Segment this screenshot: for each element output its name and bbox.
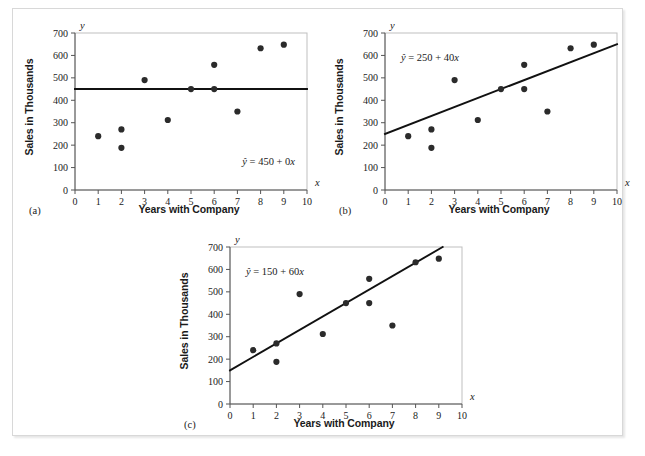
equation-annotation: ŷ = 150 + 60x: [245, 266, 304, 277]
data-point: [297, 291, 303, 297]
x-tick-label: 6: [522, 196, 527, 207]
data-point: [118, 126, 124, 132]
x-tick-label: 3: [297, 410, 302, 421]
data-point: [320, 331, 326, 337]
y-tick-label: 0: [218, 399, 223, 410]
chart-panel-a: Sales in Thousands Years with Company (a…: [29, 17, 329, 223]
scatter-plot-b: 0100200300400500600700012345678910yxŷ = …: [339, 17, 639, 217]
data-point: [366, 300, 372, 306]
data-point: [498, 86, 504, 92]
data-point: [95, 133, 101, 139]
y-tick-label: 600: [53, 50, 68, 61]
y-tick-label: 500: [53, 72, 68, 83]
data-point: [591, 42, 597, 48]
y-tick-label: 400: [363, 95, 378, 106]
x-tick-label: 4: [165, 196, 170, 207]
x-tick-label: 0: [228, 410, 233, 421]
data-point: [405, 133, 411, 139]
x-tick-label: 10: [457, 410, 467, 421]
x-axis-variable: x: [624, 177, 630, 188]
x-tick-label: 0: [73, 196, 78, 207]
x-tick-label: 2: [274, 410, 279, 421]
y-tick-label: 500: [363, 72, 378, 83]
y-tick-label: 500: [208, 286, 223, 297]
y-tick-label: 200: [363, 140, 378, 151]
data-point: [413, 259, 419, 265]
y-axis-variable: y: [79, 20, 85, 31]
y-tick-label: 200: [53, 140, 68, 151]
scatter-plot-a: 0100200300400500600700012345678910yxŷ = …: [29, 17, 329, 217]
data-point: [211, 62, 217, 68]
x-tick-label: 4: [320, 410, 325, 421]
x-tick-label: 3: [142, 196, 147, 207]
x-tick-label: 2: [119, 196, 124, 207]
y-tick-label: 700: [53, 28, 68, 39]
y-tick-label: 100: [363, 162, 378, 173]
data-point: [234, 108, 240, 114]
y-tick-label: 600: [363, 50, 378, 61]
x-tick-label: 5: [189, 196, 194, 207]
x-tick-label: 9: [281, 196, 286, 207]
x-tick-label: 8: [258, 196, 263, 207]
x-tick-label: 10: [302, 196, 312, 207]
x-tick-label: 1: [251, 410, 256, 421]
data-point: [258, 45, 264, 51]
data-point: [366, 276, 372, 282]
y-tick-label: 300: [208, 331, 223, 342]
x-tick-label: 5: [344, 410, 349, 421]
x-tick-label: 6: [367, 410, 372, 421]
data-point: [211, 86, 217, 92]
data-point: [544, 108, 550, 114]
x-tick-label: 9: [591, 196, 596, 207]
data-point: [521, 62, 527, 68]
x-tick-label: 1: [406, 196, 411, 207]
data-point: [521, 86, 527, 92]
y-axis-variable: y: [234, 234, 240, 245]
x-tick-label: 7: [235, 196, 240, 207]
data-point: [568, 45, 574, 51]
x-tick-label: 7: [390, 410, 395, 421]
x-tick-label: 1: [96, 196, 101, 207]
y-tick-label: 100: [208, 376, 223, 387]
x-tick-label: 5: [499, 196, 504, 207]
equation-annotation: ŷ = 450 + 0x: [241, 156, 295, 167]
data-point: [452, 77, 458, 83]
x-tick-label: 0: [383, 196, 388, 207]
data-point: [389, 322, 395, 328]
y-tick-label: 400: [53, 95, 68, 106]
data-point: [142, 77, 148, 83]
chart-panel-c: Sales in Thousands Years with Company (c…: [184, 231, 484, 437]
y-tick-label: 300: [53, 117, 68, 128]
y-tick-label: 0: [373, 185, 378, 196]
x-tick-label: 8: [568, 196, 573, 207]
y-tick-label: 200: [208, 354, 223, 365]
x-tick-label: 2: [429, 196, 434, 207]
y-tick-label: 700: [208, 242, 223, 253]
y-tick-label: 100: [53, 162, 68, 173]
data-point: [436, 256, 442, 262]
y-tick-label: 700: [363, 28, 378, 39]
data-point: [250, 347, 256, 353]
chart-panel-b: Sales in Thousands Years with Company (b…: [339, 17, 639, 223]
data-point: [165, 117, 171, 123]
y-axis-variable: y: [389, 20, 395, 31]
data-point: [273, 359, 279, 365]
data-point: [188, 86, 194, 92]
data-point: [475, 117, 481, 123]
x-tick-label: 3: [452, 196, 457, 207]
x-tick-label: 9: [436, 410, 441, 421]
x-axis-variable: x: [469, 391, 475, 402]
data-point: [428, 145, 434, 151]
data-point: [428, 126, 434, 132]
x-tick-label: 10: [612, 196, 622, 207]
data-point: [281, 42, 287, 48]
scatter-plot-c: 0100200300400500600700012345678910yxŷ = …: [184, 231, 484, 431]
data-point: [118, 145, 124, 151]
y-tick-label: 300: [363, 117, 378, 128]
data-point: [343, 300, 349, 306]
x-axis-variable: x: [314, 177, 320, 188]
y-tick-label: 400: [208, 309, 223, 320]
x-tick-label: 6: [212, 196, 217, 207]
data-point: [273, 340, 279, 346]
x-tick-label: 7: [545, 196, 550, 207]
